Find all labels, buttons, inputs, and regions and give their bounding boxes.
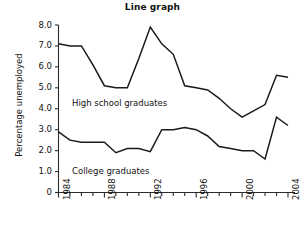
line-chart-figure: Line graph Percentage unemployed 01.02.0… bbox=[0, 0, 305, 234]
x-axis-tick-label: 2000 bbox=[246, 178, 255, 200]
x-axis-tick-label: 1984 bbox=[63, 178, 72, 200]
series-label-college-graduates: College graduates bbox=[72, 166, 150, 176]
x-axis-tick-label: 1992 bbox=[154, 178, 163, 200]
x-axis-tick-label: 1996 bbox=[200, 178, 209, 200]
x-axis-tick-label: 2004 bbox=[292, 178, 301, 200]
series-label-high-school-graduates: High school graduates bbox=[72, 98, 167, 108]
x-axis-tick-labels: 198419881992199620002004 bbox=[0, 0, 305, 234]
x-axis-tick-label: 1988 bbox=[108, 178, 117, 200]
